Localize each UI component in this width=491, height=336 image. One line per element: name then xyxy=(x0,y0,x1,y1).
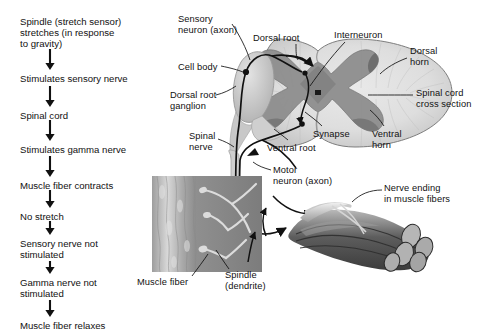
step-9: Muscle fiber relaxes xyxy=(20,320,105,331)
label-nerve-ending: Nerve ending in muscle fibers xyxy=(384,183,450,204)
muscle-fiber-bundle-illustration-art xyxy=(288,203,436,275)
cell-body-dot xyxy=(243,69,249,75)
step-3: Spinal cord xyxy=(20,110,68,121)
label-motor-neuron-axon: Motor neuron (axon) xyxy=(273,165,332,186)
label-spindle-dendrite: Spindle (dendrite) xyxy=(225,270,266,291)
label-sensory-neuron-axon: Sensory neuron (axon) xyxy=(178,14,237,35)
figure-canvas: Spindle (stretch sensor) stretches (in r… xyxy=(0,0,491,336)
ventral-root-arrowhead xyxy=(247,148,259,156)
step-1: Spindle (stretch sensor) stretches (in r… xyxy=(20,16,121,49)
step-6: No stretch xyxy=(20,211,64,222)
label-muscle-fiber: Muscle fiber xyxy=(137,277,188,288)
step-5: Muscle fiber contracts xyxy=(20,180,113,191)
step-2: Stimulates sensory nerve xyxy=(20,73,128,84)
synapse-dot-ventral xyxy=(299,121,305,127)
label-spinal-nerve: Spinal nerve xyxy=(189,131,215,152)
label-dorsal-root-ganglion: Dorsal root ganglion xyxy=(170,90,217,111)
label-spinal-cord-cross-section: Spinal cord cross section xyxy=(416,88,471,109)
step-7: Sensory nerve not stimulated xyxy=(20,238,98,260)
label-ventral-root: Ventral root xyxy=(267,143,316,154)
label-dorsal-root: Dorsal root xyxy=(253,33,300,44)
step-8: Gamma nerve not stimulated xyxy=(20,277,97,299)
label-synapse: Synapse xyxy=(313,129,350,140)
synapse-dot-dorsal xyxy=(302,70,307,75)
step-4: Stimulates gamma nerve xyxy=(20,144,126,155)
label-interneuron: Interneuron xyxy=(334,30,383,41)
label-ventral-horn: Ventral horn xyxy=(372,129,402,150)
label-cell-body: Cell body xyxy=(178,62,218,73)
label-dorsal-horn: Dorsal horn xyxy=(410,46,437,67)
